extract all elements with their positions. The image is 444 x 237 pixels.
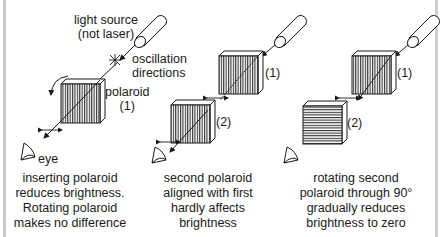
caption-line: gradually reduces	[291, 201, 421, 216]
panel-2	[152, 15, 307, 163]
caption-line: second polaroid	[150, 171, 266, 186]
polaroid-1-label: polaroid (1)	[105, 85, 149, 113]
light-source-label: light source (not laser)	[74, 13, 138, 41]
caption-line: hardly affects	[150, 201, 266, 216]
caption-line: brightness to zero	[291, 216, 421, 231]
caption-line: reduces brightness.	[12, 186, 128, 201]
caption-line: inserting polaroid	[12, 171, 128, 186]
panel-3-polaroid-1-label: (1)	[397, 66, 412, 80]
polaroid-filter-icon	[61, 79, 105, 123]
light-source-label-line2: (not laser)	[74, 27, 138, 41]
panel-2-caption: second polaroid aligned with first hardl…	[150, 171, 266, 231]
eye-label: eye	[38, 152, 58, 166]
oscillation-label-line2: directions	[132, 66, 187, 80]
polaroid-filter-icon	[171, 100, 215, 143]
light-source-label-line1: light source	[74, 13, 138, 27]
polaroid-label-line2: (1)	[105, 99, 149, 113]
light-source-icon	[405, 15, 439, 49]
oscillation-star-icon	[109, 54, 121, 66]
caption-line: makes no difference	[12, 216, 128, 231]
light-source-icon	[272, 15, 306, 49]
caption-line: aligned with first	[150, 186, 266, 201]
polaroid-filter-icon	[303, 101, 347, 144]
oscillation-label-line1: oscillation	[132, 52, 187, 66]
caption-line: rotating second	[291, 171, 421, 186]
oscillation-label: oscillation directions	[132, 52, 187, 80]
caption-line: brightness	[150, 216, 266, 231]
panel-3	[284, 15, 440, 163]
eye-icon	[284, 147, 298, 163]
panel-1-caption: inserting polaroid reduces brightness. R…	[12, 171, 128, 231]
panel-2-polaroid-2-label: (2)	[216, 115, 231, 129]
eye-icon	[21, 143, 35, 160]
polaroid-label-line1: polaroid	[105, 85, 149, 99]
caption-line: polaroid through 90°	[291, 186, 421, 201]
eye-icon	[152, 147, 166, 163]
panel-3-polaroid-2-label: (2)	[347, 116, 362, 130]
caption-line: Rotating polaroid	[12, 201, 128, 216]
panel-2-polaroid-1-label: (1)	[265, 66, 280, 80]
panel-3-caption: rotating second polaroid through 90° gra…	[291, 171, 421, 231]
